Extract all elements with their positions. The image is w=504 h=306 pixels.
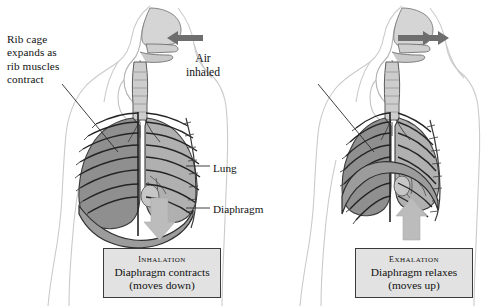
caption-title-exhalation: Exhalation xyxy=(362,253,466,266)
tongue xyxy=(140,52,173,62)
oral-cavity xyxy=(398,44,430,53)
breathing-diagram: Rib cage expands as rib muscles contract… xyxy=(0,0,504,306)
caption-line2-inhalation: (moves down) xyxy=(110,279,214,292)
caption-line1-exhalation: Diaphragm relaxes xyxy=(362,266,466,279)
caption-title-inhalation: Inhalation xyxy=(110,253,214,266)
leader-line-ribcage xyxy=(318,84,374,152)
annotation-ribcage-inhalation: Rib cage expands as rib muscles contract xyxy=(7,33,59,87)
trachea xyxy=(132,62,147,120)
label-diaphragm: Diaphragm xyxy=(213,203,263,215)
lung-left xyxy=(79,118,140,229)
tongue xyxy=(392,52,425,62)
label-lung: Lung xyxy=(213,162,237,174)
caption-inhalation: Inhalation Diaphragm contracts (moves do… xyxy=(103,248,221,298)
head-airway xyxy=(370,8,433,128)
caption-line2-exhalation: (moves up) xyxy=(362,279,466,292)
caption-line1-inhalation: Diaphragm contracts xyxy=(110,266,214,279)
air-inhaled-label: Air inhaled xyxy=(172,52,234,80)
caption-exhalation: Exhalation Diaphragm relaxes (moves up) xyxy=(355,248,473,298)
trachea xyxy=(384,62,399,120)
